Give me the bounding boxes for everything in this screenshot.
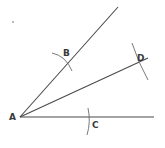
angle-bisector-diagram: A B C D bbox=[0, 0, 165, 148]
bisector-ray bbox=[20, 58, 148, 117]
arc-at-c bbox=[87, 108, 89, 135]
stray-dot bbox=[12, 21, 14, 23]
upper-ray bbox=[20, 7, 118, 117]
point-label-a: A bbox=[9, 112, 16, 122]
point-label-b: B bbox=[63, 48, 70, 58]
point-label-c: C bbox=[92, 120, 99, 130]
point-label-d: D bbox=[137, 53, 144, 63]
